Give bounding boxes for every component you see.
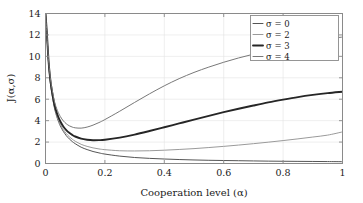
y-tick-label: 4 — [34, 115, 40, 126]
figure-container: 00.20.40.60.81 02468101214 Cooperation l… — [0, 0, 363, 203]
legend-label-3: σ = 4 — [266, 52, 290, 62]
y-tick-label: 12 — [28, 29, 40, 40]
x-tick-label: 1 — [339, 167, 345, 178]
legend-label-1: σ = 2 — [266, 30, 290, 40]
x-tick-label: 0.2 — [97, 167, 112, 178]
legend-box — [251, 16, 339, 61]
y-tick-label: 6 — [34, 94, 40, 105]
x-axis-tick-labels: 00.20.40.60.81 — [42, 167, 345, 178]
legend: σ = 0σ = 2σ = 3σ = 4 — [251, 16, 339, 62]
legend-label-0: σ = 0 — [266, 19, 290, 29]
x-axis-title: Cooperation level (α) — [140, 187, 247, 198]
x-tick-label: 0.6 — [216, 167, 231, 178]
y-tick-label: 0 — [34, 158, 40, 169]
y-axis-tick-labels: 02468101214 — [28, 8, 40, 169]
y-axis-title: J(α,σ) — [5, 74, 16, 104]
legend-label-2: σ = 3 — [266, 41, 290, 51]
line-chart: 00.20.40.60.81 02468101214 Cooperation l… — [0, 0, 363, 203]
y-tick-label: 14 — [28, 8, 40, 19]
x-tick-label: 0.8 — [276, 167, 291, 178]
y-tick-label: 10 — [28, 51, 40, 62]
x-tick-label: 0 — [42, 167, 48, 178]
y-tick-label: 8 — [34, 72, 40, 83]
x-tick-label: 0.4 — [157, 167, 172, 178]
y-tick-label: 2 — [34, 136, 40, 147]
